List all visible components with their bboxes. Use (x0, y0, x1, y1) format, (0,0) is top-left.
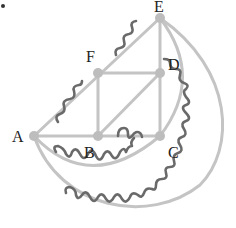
label-F: F (86, 48, 95, 65)
node-C (155, 131, 165, 141)
node-A (29, 131, 39, 141)
label-D: D (168, 56, 180, 73)
node-F (93, 68, 103, 78)
node-B (93, 131, 103, 141)
label-C: C (168, 144, 179, 161)
label-B: B (84, 144, 95, 161)
graph-diagram: A B C D E F (0, 0, 236, 228)
node-D (155, 68, 165, 78)
edge-B-D (98, 73, 160, 136)
label-A: A (12, 128, 24, 145)
label-E: E (154, 0, 164, 15)
corner-dot (1, 4, 5, 8)
